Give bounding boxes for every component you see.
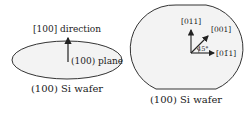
left-wafer-figure: [100] direction (100) plane (100) Si waf… xyxy=(12,24,123,94)
right-caption: (100) Si wafer xyxy=(150,94,222,105)
plane-label: (100) plane xyxy=(71,56,123,66)
axis-up-label: [011] xyxy=(181,17,201,26)
axis-right-label: [01̄1] xyxy=(216,49,236,58)
wafer-diagram: [100] direction (100) plane (100) Si waf… xyxy=(0,0,249,114)
right-wafer-figure: [011] [001] [01̄1] 45° (100) Si wafer xyxy=(130,5,243,105)
left-caption: (100) Si wafer xyxy=(31,83,103,94)
axis-diag-label: [001] xyxy=(211,25,231,34)
direction-label: [100] direction xyxy=(33,24,101,34)
angle-label: 45° xyxy=(197,45,209,53)
